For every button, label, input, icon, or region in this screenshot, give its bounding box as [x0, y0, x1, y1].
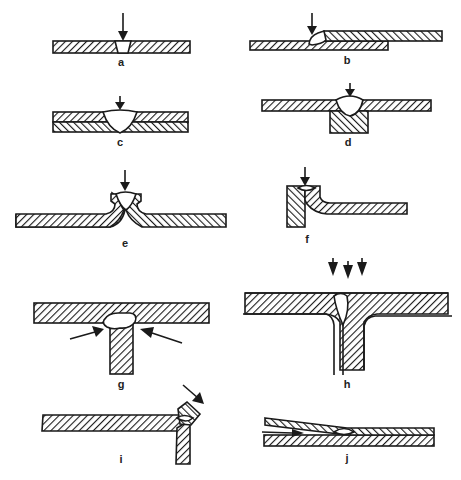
flange-right [126, 194, 226, 227]
arrow-down-icon [345, 83, 355, 97]
panel-a: a [53, 13, 190, 68]
stem-plate [110, 323, 133, 374]
panel-label-d: d [345, 136, 352, 148]
arrow-diagonal-left-icon [140, 327, 182, 343]
panel-i: i [42, 385, 204, 465]
arrow-diagonal-right-icon [70, 326, 104, 339]
lower-plate [264, 435, 434, 446]
vertical-plate [176, 420, 190, 464]
panel-label-c: c [117, 136, 123, 148]
horizontal-plate [42, 415, 185, 431]
weld-bead [177, 416, 193, 422]
panel-label-g: g [118, 378, 125, 390]
panel-label-i: i [119, 453, 122, 465]
weld-joints-diagram: a b c d [0, 0, 461, 480]
arrow-diagonal-down-right-icon [183, 385, 204, 404]
arrow-down-icon [118, 13, 128, 41]
panel-label-e: e [122, 237, 128, 249]
arrow-down-icon [300, 167, 310, 186]
panel-c: c [53, 96, 188, 148]
flanged-plate [305, 186, 407, 214]
arrow-down-icon [328, 258, 338, 276]
panel-b: b [250, 13, 442, 66]
panel-g: g [34, 303, 209, 390]
end-cap [178, 402, 200, 425]
flange-left [16, 194, 124, 227]
weld-bead [298, 186, 315, 191]
panel-h: h [243, 258, 452, 390]
panel-j: j [262, 418, 434, 464]
vertical-plate [287, 186, 305, 227]
panel-label-f: f [305, 233, 309, 245]
weld-bead [103, 313, 135, 329]
arrow-down-icon [307, 13, 317, 35]
arrow-down-icon [120, 170, 130, 191]
panel-label-h: h [344, 378, 351, 390]
arrow-down-icon [115, 96, 125, 110]
panel-d: d [262, 83, 431, 148]
panel-label-b: b [344, 54, 351, 66]
arrow-down-icon [343, 261, 353, 279]
panel-label-a: a [118, 56, 125, 68]
panel-label-j: j [344, 452, 348, 464]
weld-bead [334, 429, 354, 435]
panel-f: f [287, 167, 407, 245]
arrow-down-icon [357, 258, 367, 276]
weld-bead [115, 41, 131, 53]
panel-e: e [16, 170, 226, 249]
plate-upper [324, 31, 442, 41]
